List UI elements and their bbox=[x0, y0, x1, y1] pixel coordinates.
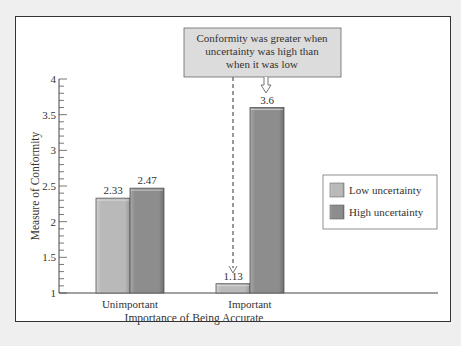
down-arrow-icon bbox=[261, 77, 271, 93]
x-tick-label: Important bbox=[228, 298, 271, 310]
legend-swatch bbox=[330, 205, 344, 219]
bar-low-uncertainty bbox=[96, 198, 130, 293]
y-axis-label: Measure of Conformity bbox=[29, 131, 42, 240]
annotation-text: when it was low bbox=[226, 58, 298, 70]
value-label: 2.47 bbox=[137, 174, 157, 186]
y-tick-label: 4 bbox=[51, 73, 57, 85]
x-tick-label: Unimportant bbox=[102, 298, 158, 310]
y-tick-label: 1.5 bbox=[42, 251, 56, 263]
x-axis-label: Importance of Being Accurate bbox=[125, 312, 264, 325]
bar-high-uncertainty bbox=[250, 108, 284, 293]
annotation-text: Conformity was greater when bbox=[196, 32, 328, 44]
value-label: 1.13 bbox=[223, 270, 243, 282]
y-tick-label: 3.5 bbox=[42, 109, 56, 121]
legend-swatch bbox=[330, 183, 344, 197]
annotation-text: uncertainty was high than bbox=[205, 45, 319, 57]
bar-low-uncertainty bbox=[216, 284, 250, 293]
legend-label: High uncertainty bbox=[349, 206, 424, 218]
y-tick-label: 2 bbox=[51, 216, 57, 228]
bar-chart: 11.522.533.54Measure of Conformity2.332.… bbox=[0, 0, 461, 346]
bar-high-uncertainty bbox=[130, 188, 164, 293]
y-tick-label: 1 bbox=[51, 287, 57, 299]
y-tick-label: 3 bbox=[51, 144, 57, 156]
value-label: 2.33 bbox=[103, 184, 123, 196]
value-label: 3.6 bbox=[260, 94, 274, 106]
y-tick-label: 2.5 bbox=[42, 180, 56, 192]
legend-label: Low uncertainty bbox=[349, 184, 422, 196]
